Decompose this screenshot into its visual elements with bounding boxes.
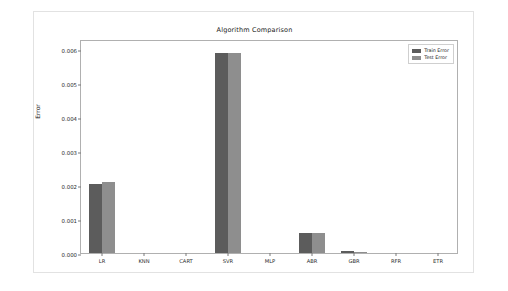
x-axis-tick-mark [438,253,439,256]
chart-legend: Train Error Test Error [408,44,454,64]
legend-label-train: Train Error [424,47,449,54]
x-axis-tick-mark [228,253,229,256]
x-axis-tick-label: RFR [391,258,401,264]
x-axis-tick-mark [144,253,145,256]
y-axis-tick-mark [78,51,81,52]
x-axis-tick-label: CART [179,258,193,264]
bar-lr-test [102,182,115,253]
legend-swatch-test-icon [412,56,421,60]
x-axis-tick-mark [396,253,397,256]
y-axis-tick-label: 0.005 [62,82,77,88]
bar-lr-train [89,184,102,253]
bar-abr-test [312,233,325,253]
x-axis-tick-mark [354,253,355,256]
y-axis-tick-mark [78,221,81,222]
x-axis-tick-label: KNN [138,258,149,264]
plot-area: 0.0000.0010.0020.0030.0040.0050.006 LRKN… [80,40,458,254]
x-axis-tick-label: SVR [223,258,233,264]
legend-swatch-train-icon [412,49,421,53]
bar-svr-test [228,53,241,253]
x-axis-tick-label: ABR [307,258,318,264]
y-axis-tick-mark [78,255,81,256]
bar-abr-train [299,233,312,253]
legend-label-test: Test Error [424,54,447,61]
x-axis-tick-mark [270,253,271,256]
x-axis-tick-label: LR [99,258,106,264]
x-axis-tick-mark [312,253,313,256]
y-axis-tick-label: 0.000 [62,252,77,258]
x-axis-tick-label: MLP [265,258,276,264]
y-axis-label: Error [34,82,41,142]
legend-item-train: Train Error [412,47,449,54]
y-axis-tick-label: 0.001 [62,218,77,224]
x-axis-tick-label: GBR [348,258,359,264]
bar-svr-train [215,53,228,253]
y-axis-tick-label: 0.003 [62,150,77,156]
y-axis-tick-label: 0.006 [62,48,77,54]
y-axis-tick-mark [78,187,81,188]
x-axis-tick-label: ETR [433,258,443,264]
y-axis-tick-label: 0.002 [62,184,77,190]
y-axis-tick-mark [78,85,81,86]
x-axis-tick-mark [186,253,187,256]
bar-gbr-train [341,251,354,253]
y-axis-tick-mark [78,119,81,120]
legend-item-test: Test Error [412,54,449,61]
bar-gbr-test [354,252,367,253]
x-axis-tick-mark [102,253,103,256]
chart-title: Algorithm Comparison [34,26,475,34]
y-axis-tick-mark [78,153,81,154]
y-axis-tick-label: 0.004 [62,116,77,122]
figure-panel: Algorithm Comparison Error 0.0000.0010.0… [33,11,474,273]
